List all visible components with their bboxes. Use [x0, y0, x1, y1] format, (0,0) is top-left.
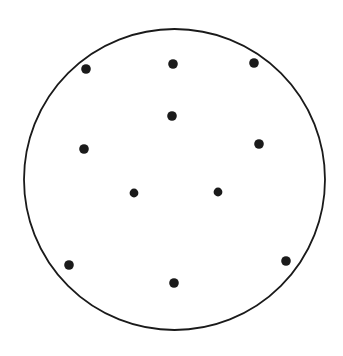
- data-point: [254, 139, 264, 149]
- data-point: [214, 188, 223, 197]
- data-point: [130, 189, 139, 198]
- data-point: [168, 59, 178, 69]
- data-point: [249, 58, 259, 68]
- data-point: [281, 256, 291, 266]
- data-point: [64, 260, 74, 270]
- data-point: [169, 278, 179, 288]
- data-point: [167, 111, 177, 121]
- data-point: [81, 64, 91, 74]
- data-point: [79, 144, 89, 154]
- points-layer: [64, 58, 291, 288]
- scatter-plot-svg: [0, 0, 343, 356]
- figure-canvas: [0, 0, 343, 356]
